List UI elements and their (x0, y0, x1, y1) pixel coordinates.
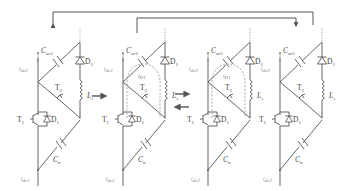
svg-text:iD1: iD1 (223, 73, 231, 80)
label-d1-top: D1 (85, 57, 93, 67)
svg-text:D1: D1 (293, 115, 301, 125)
svg-text:T1: T1 (259, 115, 267, 125)
circuit-diagram: Car1 D1 T2 Ls T1 D1 Cn idc2 idc1 iD1 Car… (0, 0, 355, 191)
label-cn: Cn (53, 155, 61, 165)
stage-3: iD1 Car1 D1 T2 Ls T1 D1 Cn idc2 idc2 (187, 28, 263, 186)
svg-text:T2: T2 (297, 83, 305, 93)
svg-text:Car1: Car1 (126, 46, 138, 56)
feedback-inner-line (137, 18, 296, 33)
svg-text:Ls: Ls (256, 91, 263, 101)
svg-text:Cn: Cn (138, 155, 146, 165)
svg-text:Ls: Ls (328, 91, 335, 101)
label-c-ar1: Car1 (41, 46, 53, 56)
svg-text:idc2: idc2 (104, 66, 113, 73)
svg-text:T2: T2 (225, 83, 233, 93)
stage-4: Car1 D1 T2 Ls T1 D1 Cn idc2 idc2 (259, 28, 335, 186)
svg-text:Cn: Cn (295, 155, 303, 165)
svg-text:idc2: idc2 (261, 66, 270, 73)
svg-text:idc2: idc2 (189, 66, 198, 73)
svg-text:D1: D1 (136, 115, 144, 125)
svg-text:idc2: idc2 (263, 176, 272, 183)
label-idc-bottom: idc1 (21, 176, 30, 183)
svg-text:idc2: idc2 (191, 176, 200, 183)
label-d1-bottom: D1 (51, 115, 59, 125)
label-t1: T1 (17, 115, 25, 125)
svg-text:T1: T1 (102, 115, 110, 125)
label-t2: T2 (55, 83, 63, 93)
svg-text:Cn: Cn (223, 155, 231, 165)
svg-text:Ls: Ls (171, 91, 178, 101)
label-idc-top: idc2 (19, 66, 28, 73)
stage-2: iD1 Car1 D1 T2 Ls T1 D1 Cn idc2 idc2 (102, 28, 178, 186)
svg-text:T1: T1 (187, 115, 195, 125)
svg-text:D1: D1 (327, 57, 335, 67)
svg-text:Car1: Car1 (211, 46, 223, 56)
svg-text:T2: T2 (140, 83, 148, 93)
svg-text:D1: D1 (221, 115, 229, 125)
label-loop-current: iD1 (138, 73, 146, 80)
svg-text:idc2: idc2 (106, 176, 115, 183)
svg-text:Car1: Car1 (283, 46, 295, 56)
svg-text:D1: D1 (170, 57, 178, 67)
stage-1: Car1 D1 T2 Ls T1 D1 Cn idc2 idc1 (17, 28, 93, 186)
